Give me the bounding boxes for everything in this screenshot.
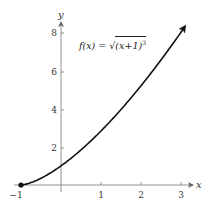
- x-ticks: [101, 182, 181, 185]
- formula-lhs: f(x) =: [79, 40, 109, 51]
- y-tick-label: 4: [51, 105, 57, 115]
- x-axis-label: x: [196, 179, 202, 190]
- formula-exponent: 3: [142, 39, 146, 46]
- y-tick-label: 6: [51, 67, 57, 77]
- function-graph: −1 1 2 3 2 4 6 8 x y: [0, 0, 216, 217]
- y-tick-label: 2: [51, 143, 57, 153]
- x-tick-label: 2: [138, 190, 144, 200]
- x-tick-label: 3: [178, 190, 184, 200]
- y-ticks: [61, 33, 64, 148]
- formula-inner: (x+1): [115, 40, 142, 51]
- y-tick-label: 8: [51, 28, 57, 38]
- radicand: (x+1)3: [115, 36, 146, 51]
- y-axis-label: y: [57, 9, 64, 20]
- x-tick-label: −1: [9, 190, 22, 200]
- function-formula: f(x) = √(x+1)3: [79, 36, 146, 51]
- x-tick-label: 1: [98, 190, 104, 200]
- start-point-marker: [18, 182, 23, 187]
